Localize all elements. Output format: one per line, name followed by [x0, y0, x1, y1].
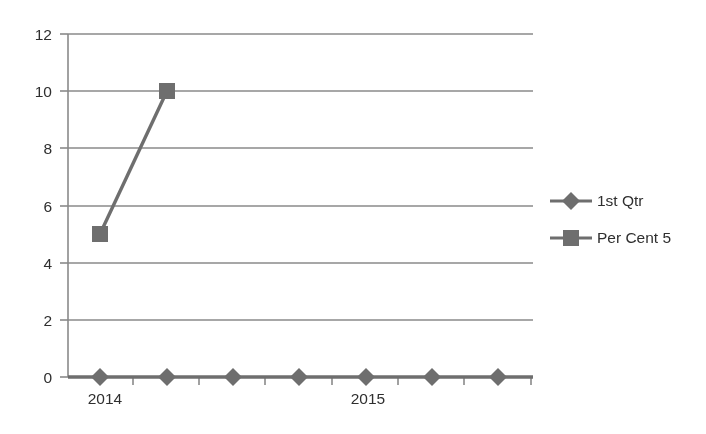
legend-label-1st-qtr: 1st Qtr [597, 192, 644, 209]
data-point-marker [159, 83, 175, 99]
x-axis-label-2014: 2014 [88, 390, 123, 407]
y-axis-label-12: 12 [35, 26, 52, 43]
data-point-marker [92, 226, 108, 242]
y-axis-label-0: 0 [43, 369, 52, 386]
legend-label-per-cent-5: Per Cent 5 [597, 229, 671, 246]
data-point-marker [224, 368, 242, 386]
y-axis-label-6: 6 [43, 198, 52, 215]
data-point-marker [158, 368, 176, 386]
data-point-marker [489, 368, 507, 386]
line-chart: 12 10 8 6 4 2 0 [0, 0, 706, 434]
legend-entry-1st-qtr[interactable]: 1st Qtr [550, 192, 644, 210]
y-axis-label-4: 4 [43, 255, 52, 272]
data-point-marker [91, 368, 109, 386]
chart-legend: 1st Qtr Per Cent 5 [550, 192, 671, 246]
y-axis-label-10: 10 [35, 83, 53, 100]
y-axis-labels: 12 10 8 6 4 2 0 [35, 26, 53, 386]
data-point-marker [290, 368, 308, 386]
series-per-cent-5-line [100, 91, 167, 234]
y-axis-ticks [60, 34, 68, 377]
chart-canvas: 12 10 8 6 4 2 0 [0, 0, 706, 434]
diamond-marker-icon [562, 192, 580, 210]
x-axis-label-2015: 2015 [351, 390, 385, 407]
legend-entry-per-cent-5[interactable]: Per Cent 5 [550, 229, 671, 246]
y-axis-label-8: 8 [43, 140, 52, 157]
data-point-marker [423, 368, 441, 386]
gridlines [68, 34, 533, 320]
data-point-marker [357, 368, 375, 386]
x-axis-labels: 2014 2015 [88, 390, 385, 407]
y-axis-label-2: 2 [43, 312, 52, 329]
square-marker-icon [563, 230, 579, 246]
